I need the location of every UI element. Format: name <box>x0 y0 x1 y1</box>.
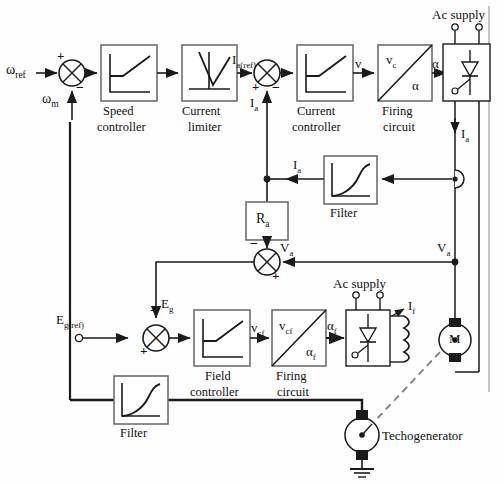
label-wref: ωref <box>6 62 26 80</box>
sign-speed-plus: + <box>57 48 64 64</box>
label-eg: Eg <box>161 296 173 314</box>
sign-field-minus: − <box>150 303 158 319</box>
motor-brush-bottom <box>449 353 461 362</box>
tacho-brush-top <box>356 410 368 420</box>
label-techogenerator: Techogenerator <box>382 428 463 444</box>
label-ac-supply-field: Ac supply <box>333 276 386 292</box>
label-current-limiter-line1: Current <box>182 104 220 119</box>
label-motor: M <box>449 331 461 347</box>
label-ia-into-sum: Ia <box>250 95 258 113</box>
sign-current-minus: − <box>272 80 280 96</box>
label-eg-ref: Eg(ref) <box>56 312 84 330</box>
label-va-left: Va <box>280 240 293 258</box>
label-field-controller-line1: Field <box>205 369 231 384</box>
label-filter-speed: Filter <box>120 426 147 441</box>
label-filter-armature: Filter <box>330 206 357 221</box>
label-firing-circuit-line2: circuit <box>383 120 415 135</box>
arrow-if <box>392 309 404 316</box>
ac-field-terminal-right <box>377 292 383 298</box>
label-speed-controller-line1: Speed <box>103 104 134 119</box>
block-converter <box>443 44 490 101</box>
sign-va-plus: + <box>272 268 279 284</box>
label-current-controller-line2: controller <box>292 120 341 135</box>
label-wm: ωm <box>42 91 59 109</box>
current-sensor-node <box>452 176 457 181</box>
tacho-brush-bottom <box>356 450 368 460</box>
label-ia-rail: Ia <box>461 126 469 144</box>
sign-current-plus: + <box>252 79 259 95</box>
label-current-limiter-line2: limiter <box>188 120 221 135</box>
label-alphaf-out: αf <box>327 318 337 336</box>
label-firing-circuit-line1: Firing <box>382 104 413 119</box>
label-vc-in-block: vc <box>386 52 396 70</box>
label-field-firing-line1: Firing <box>276 369 307 384</box>
sign-speed-minus: − <box>76 80 84 96</box>
terminal-egref <box>75 334 82 341</box>
label-vcf-in-block: vcf <box>279 318 292 336</box>
label-alpha-in-block: α <box>412 78 419 94</box>
label-ra-block: Ra <box>256 211 270 229</box>
ac-field-terminal-left <box>353 292 359 298</box>
label-ac-supply-top: Ac supply <box>432 7 485 23</box>
label-ia-feedback: Ia <box>293 157 301 175</box>
label-vc-signal: vc <box>355 56 365 74</box>
field-winding-coil <box>404 316 409 362</box>
label-current-controller-line1: Current <box>297 104 335 119</box>
label-alphaf-in-block: αf <box>306 344 316 362</box>
label-va-right: Va <box>437 240 450 258</box>
ac-terminal-dot-right <box>476 24 482 30</box>
wire-vasum-to-egsum-path <box>156 262 254 285</box>
sign-field-plus: + <box>140 343 147 359</box>
label-speed-controller-line2: controller <box>97 120 146 135</box>
motor-brush-top <box>449 318 461 327</box>
ac-terminal-dot-left <box>452 24 458 30</box>
label-vcf-signal: vcf <box>251 320 264 338</box>
label-ia-ref: Ia(ref) <box>232 52 256 70</box>
label-field-controller-line2: controller <box>190 385 239 400</box>
label-alpha-out: α <box>432 56 439 72</box>
label-field-firing-line2: circuit <box>277 385 309 400</box>
figure-canvas: ωref ωm + − Speed controller Current lim… <box>0 0 504 484</box>
sign-va-minus: − <box>250 236 258 252</box>
label-if: If <box>408 298 415 316</box>
